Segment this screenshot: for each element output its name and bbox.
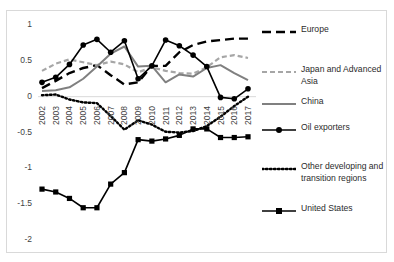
data-point-marker <box>245 86 251 92</box>
y-axis-tick-label: -1.5 <box>8 199 32 208</box>
data-point-marker <box>67 196 72 201</box>
data-point-marker <box>39 80 45 86</box>
y-axis-tick-label: -1 <box>8 163 32 172</box>
legend-item-label: Japan and Advanced Asia <box>301 64 381 87</box>
series-europe <box>42 39 248 88</box>
data-point-marker <box>190 52 196 58</box>
legend-item-europe[interactable]: Europe <box>262 24 329 36</box>
data-point-marker <box>231 96 237 102</box>
data-point-marker <box>108 182 113 187</box>
x-axis-tick-label: 2002 <box>38 106 47 125</box>
x-axis-tick-label: 2008 <box>120 106 129 125</box>
series-united-states <box>39 126 250 210</box>
legend-item-label: Other developing and transition regions <box>301 161 383 184</box>
x-axis-tick-label: 2003 <box>52 106 61 125</box>
series-oil-exporters <box>39 37 251 102</box>
data-point-marker <box>177 133 182 138</box>
data-point-marker <box>122 170 127 175</box>
legend-item-china[interactable]: China <box>262 96 323 108</box>
legend-item-label: Oil exporters <box>301 122 350 134</box>
solid-gray-key <box>262 96 296 108</box>
legend-item-united-states[interactable]: United States <box>262 203 353 215</box>
y-axis-tick-label: 1 <box>8 20 32 29</box>
data-point-marker <box>94 37 100 43</box>
y-axis-tick-label: -0.5 <box>8 128 32 137</box>
data-point-marker <box>149 139 154 144</box>
data-point-marker <box>163 37 169 43</box>
x-axis-tick-label: 2014 <box>203 106 212 125</box>
data-point-marker <box>204 126 209 131</box>
legend-item-other-developing-and-transition-regions[interactable]: Other developing and transition regions <box>262 161 383 184</box>
x-axis-tick-label: 2015 <box>217 106 226 125</box>
data-point-marker <box>245 134 250 139</box>
data-point-marker <box>108 49 114 55</box>
data-point-marker <box>232 135 237 140</box>
data-point-marker <box>81 205 86 210</box>
x-axis-tick-label: 2016 <box>230 106 239 125</box>
legend-item-label: United States <box>301 203 353 215</box>
data-point-marker <box>218 135 223 140</box>
data-point-marker <box>80 42 86 48</box>
x-axis-tick-label: 2010 <box>148 106 157 125</box>
data-point-marker <box>149 63 155 69</box>
series-china <box>42 47 248 91</box>
legend-item-label: Europe <box>301 24 329 36</box>
x-axis-tick-label: 2004 <box>65 106 74 125</box>
y-axis-tick-label: 0.5 <box>8 56 32 65</box>
data-point-marker <box>39 187 44 192</box>
x-axis-tick-label: 2012 <box>175 106 184 125</box>
data-point-marker <box>67 62 73 68</box>
data-point-marker <box>204 64 210 70</box>
data-point-marker <box>218 95 224 101</box>
x-axis-tick-label: 2013 <box>189 106 198 125</box>
data-point-marker <box>190 126 195 131</box>
x-axis-tick-label: 2017 <box>244 106 253 125</box>
dotted-black-key <box>262 161 296 173</box>
data-point-marker <box>135 76 141 82</box>
data-point-marker <box>94 205 99 210</box>
x-axis-tick-label: 2009 <box>134 106 143 125</box>
dashed-short-gray-key <box>262 64 296 76</box>
y-axis-tick-label: 0 <box>8 92 32 101</box>
solid-black-square-marker-key <box>262 203 296 215</box>
x-axis-tick-label: 2007 <box>107 106 116 125</box>
data-point-marker <box>122 38 128 44</box>
data-point-marker <box>53 189 58 194</box>
x-axis-tick-label: 2011 <box>162 106 171 124</box>
y-axis-tick-label: -2 <box>8 235 32 244</box>
data-point-marker <box>177 43 183 49</box>
legend-item-label: China <box>301 96 323 108</box>
legend-item-japan-and-advanced-asia[interactable]: Japan and Advanced Asia <box>262 64 381 87</box>
data-point-marker <box>163 136 168 141</box>
legend-item-oil-exporters[interactable]: Oil exporters <box>262 122 350 134</box>
chart-container: 10.50-0.5-1-1.5-2 2002200320042005200620… <box>0 0 394 262</box>
data-point-marker <box>136 137 141 142</box>
x-axis-tick-label: 2005 <box>79 106 88 125</box>
data-point-marker <box>53 75 59 81</box>
x-axis-tick-label: 2006 <box>93 106 102 125</box>
dashed-long-black-key <box>262 24 296 36</box>
solid-black-circle-marker-key <box>262 122 296 134</box>
